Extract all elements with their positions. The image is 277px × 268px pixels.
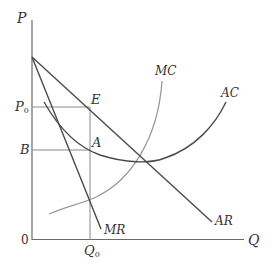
diagram-canvas	[0, 0, 277, 268]
ar-line	[32, 57, 212, 222]
x-axis-label: Q	[248, 233, 259, 247]
mr-label: MR	[104, 224, 125, 236]
mr-line	[32, 57, 101, 229]
y-axis-label: P	[17, 11, 26, 25]
point-e-label: E	[91, 93, 101, 106]
point-a-label: A	[92, 136, 101, 149]
origin-label: 0	[21, 234, 29, 246]
monopoly-diagram: P Q 0 P0 B Q0 E A MC AC AR MR	[0, 0, 277, 268]
mc-label: MC	[155, 65, 176, 77]
p0-label-subscript: 0	[24, 106, 29, 115]
ac-curve	[44, 102, 226, 162]
mc-curve	[49, 81, 162, 214]
p0-label: P0	[15, 100, 29, 115]
q0-label-subscript: 0	[95, 250, 100, 259]
ac-label: AC	[221, 87, 239, 99]
q0-label: Q0	[84, 244, 100, 259]
p0-label-main: P	[15, 99, 24, 114]
q0-label-main: Q	[84, 243, 95, 258]
b-label: B	[20, 143, 30, 156]
ar-label: AR	[215, 215, 233, 227]
